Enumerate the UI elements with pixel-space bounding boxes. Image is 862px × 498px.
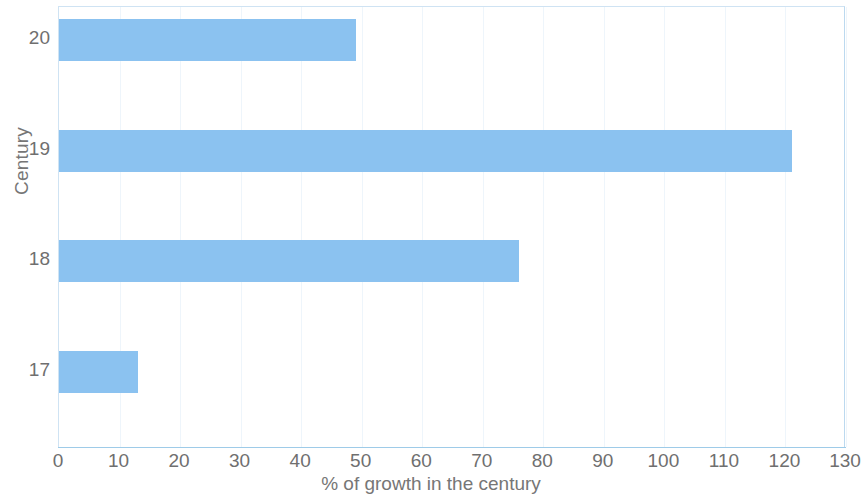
x-tick-label: 120 [769, 450, 801, 472]
x-tick-label: 0 [53, 450, 64, 472]
x-tick-label: 10 [108, 450, 129, 472]
x-axis-title: % of growth in the century [0, 473, 862, 495]
bar-chart: Century 20191817 01020304050607080901001… [0, 0, 862, 498]
y-tick-label: 18 [8, 248, 50, 270]
x-tick-label: 60 [411, 450, 432, 472]
x-tick-label: 90 [592, 450, 613, 472]
bar-19 [59, 130, 792, 172]
x-tick-label: 30 [229, 450, 250, 472]
y-axis-tick-labels: 20191817 [0, 0, 50, 448]
bar-20 [59, 19, 356, 61]
y-tick-label: 17 [8, 359, 50, 381]
x-tick-label: 50 [350, 450, 371, 472]
x-tick-label: 110 [709, 450, 739, 472]
bar-18 [59, 240, 519, 282]
y-tick-label: 20 [8, 27, 50, 49]
plot-area [58, 6, 845, 448]
x-tick-label: 130 [829, 450, 861, 472]
x-tick-label: 20 [168, 450, 189, 472]
x-tick-label: 80 [532, 450, 553, 472]
y-tick-label: 19 [8, 138, 50, 160]
x-tick-label: 70 [471, 450, 492, 472]
x-tick-label: 100 [648, 450, 680, 472]
bars-layer [59, 7, 844, 447]
x-axis-line [58, 447, 846, 448]
bar-17 [59, 351, 138, 393]
x-tick-label: 40 [290, 450, 311, 472]
gridline [846, 7, 847, 447]
